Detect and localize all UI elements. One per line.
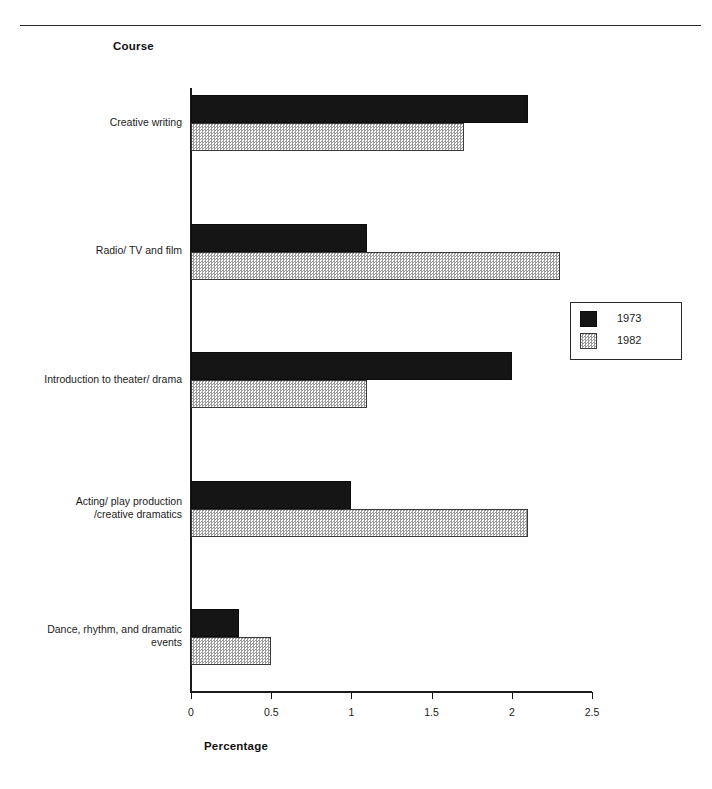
category-label-line: events (0, 636, 182, 649)
category-label: Dance, rhythm, and dramaticevents (0, 623, 182, 649)
x-axis-title: Percentage (204, 740, 268, 752)
bar-1982 (191, 380, 367, 408)
x-tick-label: 2 (492, 706, 532, 718)
x-tick-label: 0.5 (251, 706, 291, 718)
chart-figure: Course 00.511.522.5 Creative writingRadi… (0, 0, 712, 789)
category-label-line: Radio/ TV and film (0, 244, 182, 257)
x-tick-mark (191, 692, 192, 699)
category-label-line: Introduction to theater/ drama (0, 373, 182, 386)
x-axis-title-wrap: Percentage (0, 740, 712, 752)
x-tick-label: 1.5 (412, 706, 452, 718)
category-label-line: Acting/ play production (0, 495, 182, 508)
x-tick-mark (271, 692, 272, 699)
x-tick-mark (351, 692, 352, 699)
category-label: Acting/ play production/creative dramati… (0, 495, 182, 521)
bar-1982 (191, 252, 560, 280)
bar-1973 (191, 224, 367, 252)
category-label: Introduction to theater/ drama (0, 373, 182, 386)
category-label: Radio/ TV and film (0, 244, 182, 257)
chart-legend: 1973 1982 (570, 302, 682, 360)
x-tick-mark (592, 692, 593, 699)
bar-1973 (191, 609, 239, 637)
bar-1982 (191, 637, 271, 665)
bar-1982 (191, 509, 528, 537)
bar-1973 (191, 481, 351, 509)
bar-1982 (191, 123, 464, 151)
x-tick-label: 0 (171, 706, 211, 718)
plot-area: 00.511.522.5 Creative writingRadio/ TV a… (0, 0, 712, 789)
legend-swatch-1982-icon (580, 333, 597, 349)
x-tick-label: 1 (331, 706, 371, 718)
x-tick-mark (512, 692, 513, 699)
x-tick-mark (432, 692, 433, 699)
category-label-line: Creative writing (0, 116, 182, 129)
category-label-line: Dance, rhythm, and dramatic (0, 623, 182, 636)
legend-label-1982: 1982 (617, 334, 641, 346)
bar-1973 (191, 352, 512, 380)
category-label: Creative writing (0, 116, 182, 129)
bar-1973 (191, 95, 528, 123)
legend-label-1973: 1973 (617, 312, 641, 324)
x-axis-line (190, 691, 592, 693)
legend-swatch-1973-icon (580, 311, 597, 327)
x-tick-label: 2.5 (572, 706, 612, 718)
category-label-line: /creative dramatics (0, 508, 182, 521)
